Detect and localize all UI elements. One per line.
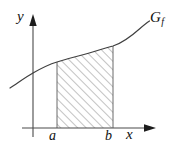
integral-area-figure: y x a b Gf — [0, 0, 177, 149]
lower-bound-label-a: a — [49, 129, 56, 143]
curve-label-gf: Gf — [150, 10, 164, 27]
x-axis-arrowhead-icon — [144, 124, 156, 131]
y-axis-label: y — [17, 9, 24, 24]
upper-bound-label-b: b — [105, 129, 112, 143]
y-axis-arrowhead-icon — [29, 14, 36, 26]
shaded-region-under-curve — [55, 40, 115, 130]
curve-label-base: G — [150, 9, 161, 25]
x-axis-label: x — [126, 127, 133, 142]
curve-label-subscript: f — [161, 16, 164, 27]
